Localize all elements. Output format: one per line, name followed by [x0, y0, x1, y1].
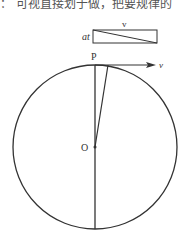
velocity-rectangle: [93, 30, 157, 43]
circular-motion-diagram: at v v P O: [0, 0, 192, 244]
point-o-label: O: [81, 142, 88, 153]
velocity-label: v: [159, 60, 163, 70]
point-p-label: P: [91, 51, 97, 62]
center-point: [94, 146, 97, 149]
slanted-radius: [95, 65, 108, 147]
rect-label-at: at: [82, 31, 90, 42]
rect-label-v: v: [122, 19, 127, 29]
velocity-arrow: [95, 62, 156, 68]
